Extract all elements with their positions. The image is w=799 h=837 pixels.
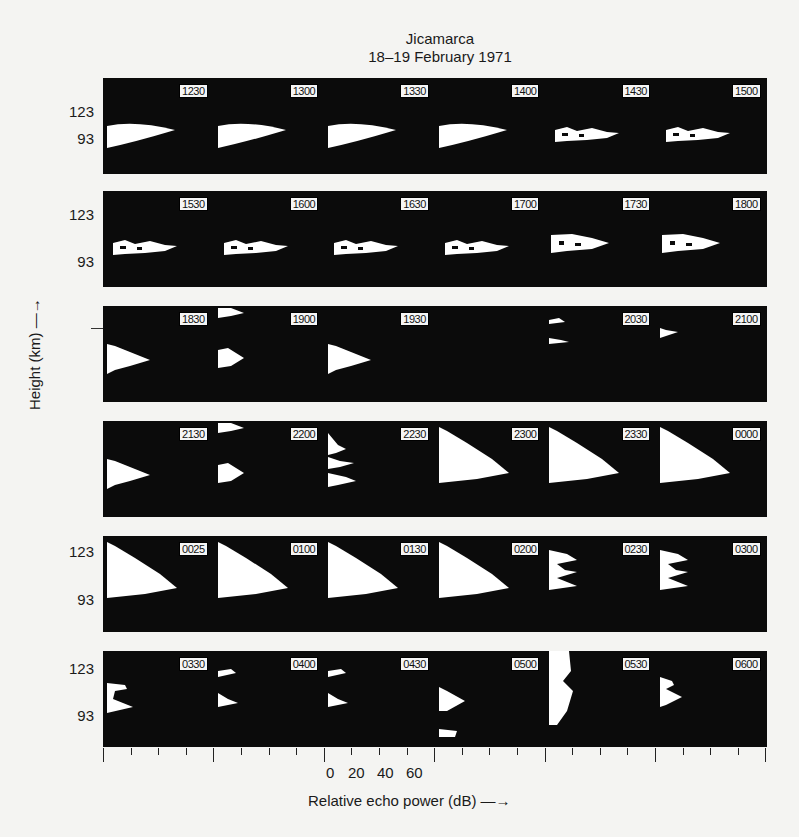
echo-panel: 0330: [103, 651, 214, 747]
x-tick: [324, 748, 325, 762]
echo-panel: 2300: [435, 421, 546, 517]
row1-y-123: 123: [56, 103, 94, 120]
time-label: 1700: [511, 197, 539, 211]
echo-panel: 2100: [656, 306, 767, 402]
row1-y-93: 93: [56, 130, 94, 147]
echo-panel: 1800: [656, 191, 767, 287]
x-tick: [379, 748, 380, 755]
echo-panel: 1700: [435, 191, 546, 287]
time-label: 0200: [511, 542, 539, 556]
time-label: 1430: [622, 84, 650, 98]
time-label: 1400: [511, 84, 539, 98]
time-label: 2100: [732, 312, 760, 326]
row2-y-123: 123: [56, 206, 94, 223]
row5-y-123: 123: [56, 543, 94, 560]
x-tick: [765, 748, 766, 762]
time-label: 0400: [290, 657, 318, 671]
strip-row-3: 18301900193020302100: [103, 306, 767, 402]
x-tick-label-40: 40: [377, 764, 394, 781]
echo-panel: 1400: [435, 78, 546, 174]
x-tick-label-0: 0: [326, 764, 334, 781]
time-label: 1930: [400, 312, 428, 326]
echo-panel: 2230: [324, 421, 435, 517]
time-label: 1500: [732, 84, 760, 98]
x-tick: [351, 748, 352, 755]
echo-panel: 1300: [214, 78, 325, 174]
x-tick: [489, 748, 490, 755]
time-label: 0000: [732, 427, 760, 441]
x-axis: [103, 748, 767, 762]
echo-panel: 2330: [545, 421, 656, 517]
row6-y-93: 93: [56, 707, 94, 724]
x-tick: [269, 748, 270, 755]
time-label: 1800: [732, 197, 760, 211]
echo-panel: 0500: [435, 651, 546, 747]
echo-panel: 2200: [214, 421, 325, 517]
time-label: 1600: [290, 197, 318, 211]
x-tick: [545, 748, 546, 762]
time-label: 0530: [622, 657, 650, 671]
x-tick: [600, 748, 601, 755]
x-tick: [213, 748, 214, 762]
time-label: 0130: [400, 542, 428, 556]
x-tick-label-60: 60: [406, 764, 423, 781]
x-tick: [738, 748, 739, 755]
time-label: 0025: [179, 542, 207, 556]
row3-y-tick: [91, 328, 103, 329]
time-label: 1330: [400, 84, 428, 98]
x-tick: [655, 748, 656, 762]
echo-panel: 1500: [656, 78, 767, 174]
time-label: 0330: [179, 657, 207, 671]
echo-panel: 2130: [103, 421, 214, 517]
time-label: 1730: [622, 197, 650, 211]
y-axis-title: Height (km) —→: [26, 298, 43, 410]
echo-panel: 1730: [545, 191, 656, 287]
time-label: 0600: [732, 657, 760, 671]
echo-panel: 0100: [214, 536, 325, 632]
echo-panel: 1530: [103, 191, 214, 287]
echo-panel: 1330: [324, 78, 435, 174]
time-label: 0500: [511, 657, 539, 671]
x-tick: [407, 748, 408, 755]
x-tick-label-20: 20: [348, 764, 365, 781]
strip-row-1: 123013001330140014301500: [103, 78, 767, 174]
time-label: 0300: [732, 542, 760, 556]
x-tick: [103, 748, 104, 762]
echo-panel: 1900: [214, 306, 325, 402]
time-label: 0430: [400, 657, 428, 671]
chart-subtitle: 18–19 February 1971: [0, 48, 799, 66]
time-label: 2230: [400, 427, 428, 441]
x-tick: [434, 748, 435, 762]
echo-panel: 1930: [324, 306, 435, 402]
x-tick: [186, 748, 187, 755]
time-label: 2300: [511, 427, 539, 441]
x-tick: [296, 748, 297, 755]
echo-panel: 1600: [214, 191, 325, 287]
x-tick: [158, 748, 159, 755]
echo-panel: 0230: [545, 536, 656, 632]
x-axis-title: Relative echo power (dB) —→: [308, 792, 511, 809]
time-label: 1300: [290, 84, 318, 98]
x-tick: [683, 748, 684, 755]
strip-row-4: 213022002230230023300000: [103, 421, 767, 517]
x-tick: [627, 748, 628, 755]
echo-panel: 1430: [545, 78, 656, 174]
row2-y-93: 93: [56, 253, 94, 270]
x-tick: [710, 748, 711, 755]
echo-panel: 0200: [435, 536, 546, 632]
time-label: 0230: [622, 542, 650, 556]
x-tick: [462, 748, 463, 755]
echo-panel: 0600: [656, 651, 767, 747]
echo-panel: 0300: [656, 536, 767, 632]
echo-panel: 0530: [545, 651, 656, 747]
time-label: 2130: [179, 427, 207, 441]
time-label: 2330: [622, 427, 650, 441]
time-label: 2030: [622, 312, 650, 326]
echo-panel: 2030: [545, 306, 656, 402]
strip-row-2: 153016001630170017301800: [103, 191, 767, 287]
echo-panel: 1630: [324, 191, 435, 287]
echo-panel: 1230: [103, 78, 214, 174]
time-label: 1530: [179, 197, 207, 211]
time-label: 0100: [290, 542, 318, 556]
x-tick: [241, 748, 242, 755]
